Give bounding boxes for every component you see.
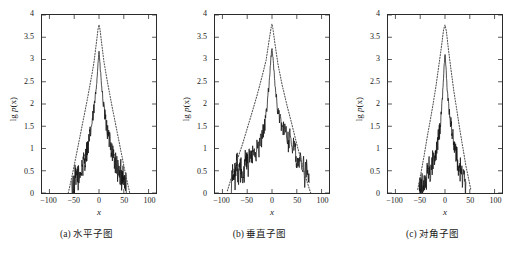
x-axis-label-a: x [41, 207, 157, 217]
y-tick-label: 2 [376, 100, 380, 108]
y-axis-ticks-a: 00.511.522.533.54 [0, 14, 38, 194]
y-tick-label: 1.5 [197, 123, 207, 131]
x-tick-label: 50 [293, 196, 301, 205]
figure-container: 00.511.522.533.54 lg p(x) −100−50050100 … [0, 0, 519, 253]
subplot-panel-c: 00.511.522.533.54 lg p(x) −100−50050100 … [346, 0, 519, 253]
y-tick-label: 2.5 [24, 78, 34, 86]
subplot-panel-b: 00.511.522.533.54 lg p(x) −100−50050100 … [173, 0, 346, 253]
y-tick-label: 4 [376, 10, 380, 18]
y-tick-label: 3 [30, 55, 34, 63]
x-tick-label: 0 [97, 196, 101, 205]
y-tick-label: 2.5 [197, 78, 207, 86]
y-label-symbol: p [354, 107, 364, 112]
y-label-suffix: (x) [354, 97, 364, 108]
subplot-caption-c: (c) 对角子图 [346, 226, 519, 240]
x-tick-label: −100 [213, 196, 230, 205]
x-tick-label: 100 [316, 196, 328, 205]
y-tick-label: 0 [30, 190, 34, 198]
y-axis-label-a: lg p(x) [8, 74, 18, 144]
y-tick-label: 3.5 [197, 33, 207, 41]
y-tick-label: 3 [203, 55, 207, 63]
x-tick-label: −50 [414, 196, 427, 205]
y-label-symbol: p [181, 107, 191, 112]
subplot-panel-a: 00.511.522.533.54 lg p(x) −100−50050100 … [0, 0, 173, 253]
x-axis-label-b: x [214, 207, 330, 217]
y-label-suffix: (x) [8, 97, 18, 108]
y-label-prefix: lg [8, 112, 18, 121]
x-tick-label: 50 [466, 196, 474, 205]
x-tick-label: −100 [386, 196, 403, 205]
plot-area-b [214, 14, 330, 194]
plot-canvas-b [215, 15, 329, 193]
y-tick-label: 1 [30, 145, 34, 153]
subplot-caption-b: (b) 垂直子图 [173, 226, 346, 240]
y-tick-label: 1.5 [370, 123, 380, 131]
x-tick-label: −50 [68, 196, 81, 205]
y-tick-label: 1 [376, 145, 380, 153]
x-tick-label: 0 [270, 196, 274, 205]
y-tick-label: 0 [376, 190, 380, 198]
y-tick-label: 3 [376, 55, 380, 63]
plot-canvas-c [388, 15, 502, 193]
x-tick-label: 0 [443, 196, 447, 205]
plot-canvas-a [42, 15, 156, 193]
y-label-prefix: lg [354, 112, 364, 121]
y-label-suffix: (x) [181, 97, 191, 108]
y-axis-ticks-c: 00.511.522.533.54 [346, 14, 384, 194]
y-tick-label: 0.5 [197, 168, 207, 176]
y-axis-label-b: lg p(x) [181, 74, 191, 144]
y-label-prefix: lg [181, 112, 191, 121]
subplot-caption-a: (a) 水平子图 [0, 226, 173, 240]
y-axis-label-c: lg p(x) [354, 74, 364, 144]
y-tick-label: 3.5 [24, 33, 34, 41]
y-label-symbol: p [8, 107, 18, 112]
plot-area-a [41, 14, 157, 194]
x-tick-label: 100 [489, 196, 501, 205]
y-tick-label: 0.5 [24, 168, 34, 176]
x-tick-label: 50 [120, 196, 128, 205]
y-tick-label: 2 [203, 100, 207, 108]
x-tick-label: −50 [241, 196, 254, 205]
y-tick-label: 4 [203, 10, 207, 18]
y-tick-label: 2.5 [370, 78, 380, 86]
x-axis-label-c: x [387, 207, 503, 217]
y-axis-ticks-b: 00.511.522.533.54 [173, 14, 211, 194]
y-tick-label: 1 [203, 145, 207, 153]
y-tick-label: 1.5 [24, 123, 34, 131]
y-tick-label: 3.5 [370, 33, 380, 41]
y-tick-label: 4 [30, 10, 34, 18]
x-tick-label: −100 [40, 196, 57, 205]
y-tick-label: 0.5 [370, 168, 380, 176]
plot-area-c [387, 14, 503, 194]
y-tick-label: 2 [30, 100, 34, 108]
x-tick-label: 100 [143, 196, 155, 205]
y-tick-label: 0 [203, 190, 207, 198]
